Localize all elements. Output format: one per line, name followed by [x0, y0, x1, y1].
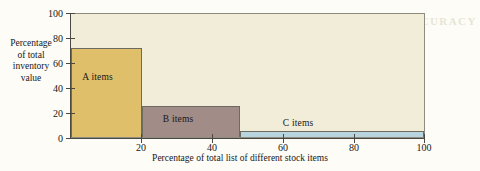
y-tick-20: 20: [66, 113, 75, 114]
y-axis: 100 80 60 40 20 0: [70, 13, 71, 138]
inventory-abc-chart-figure: INVENTORY PLANNING AND ACCURACY A items …: [0, 0, 480, 171]
y-tick-100: 100: [66, 13, 75, 14]
x-tick-label-20: 20: [136, 142, 146, 153]
x-tick-80: 80: [354, 134, 355, 143]
y-tick-label-20: 20: [53, 108, 63, 119]
y-axis-title-line-4: value: [0, 73, 62, 85]
x-tick-60: 60: [283, 134, 284, 143]
bar-c-items: [240, 131, 424, 137]
y-tick-40: 40: [66, 88, 75, 89]
y-axis-title-line-2: of total: [0, 50, 62, 62]
x-tick-100: 100: [424, 134, 425, 143]
plot-inner: A items B items C items: [71, 14, 424, 137]
x-tick-label-60: 60: [278, 142, 288, 153]
y-axis-title-line-1: Percentage: [0, 38, 62, 50]
y-axis-title: Percentage of total inventory value: [0, 38, 62, 84]
bar-label-a-items: A items: [82, 72, 113, 82]
y-tick-60: 60: [66, 63, 75, 64]
x-axis: 20 40 60 80 100: [70, 138, 425, 139]
x-tick-label-80: 80: [349, 142, 359, 153]
y-tick-80: 80: [66, 38, 75, 39]
plot-area: A items B items C items: [70, 13, 425, 138]
y-axis-title-line-3: inventory: [0, 61, 62, 73]
bar-a-items: [71, 48, 142, 137]
bar-label-b-items: B items: [163, 114, 194, 124]
x-tick-label-100: 100: [417, 142, 432, 153]
x-axis-title: Percentage of total list of different st…: [0, 153, 480, 163]
y-tick-label-40: 40: [53, 83, 63, 94]
y-tick-label-100: 100: [48, 8, 63, 19]
x-tick-label-40: 40: [207, 142, 217, 153]
y-tick-label-0: 0: [58, 133, 63, 144]
x-tick-20: 20: [141, 134, 142, 143]
x-tick-40: 40: [212, 134, 213, 143]
bar-label-c-items: C items: [283, 118, 314, 128]
